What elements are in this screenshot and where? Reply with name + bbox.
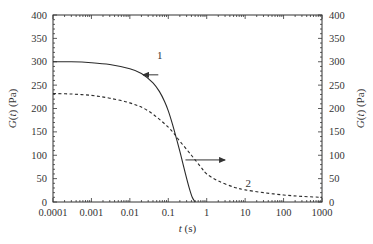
y-right-tick-label: 250 [329, 80, 345, 91]
data-series [53, 62, 322, 202]
y-right-tick-label: 50 [329, 173, 340, 184]
plot-frame [53, 15, 322, 202]
y-left-tick-label: 350 [31, 33, 47, 44]
y-left-tick-label: 150 [31, 126, 47, 137]
x-tick-label: 0.001 [80, 207, 104, 218]
y-left-axis-title: G(t) (Pa) [354, 88, 367, 128]
axis-ticks [53, 15, 322, 202]
x-axis-title: t (s) [179, 222, 197, 235]
y-left-tick-label: 200 [31, 103, 47, 114]
curve-label-1: 1 [157, 49, 163, 61]
curve-label-2: 2 [245, 177, 251, 189]
y-left-tick-label: 0 [42, 197, 47, 208]
y-right-tick-label: 0 [329, 197, 334, 208]
tick-labels: 0050501001001501502002002502503003003503… [31, 10, 345, 219]
x-tick-label: 10 [240, 207, 251, 218]
y-left-tick-label: 250 [31, 80, 47, 91]
x-tick-label: 1 [204, 207, 209, 218]
relaxation-modulus-chart: 0050501001001501502002002502503003003503… [0, 0, 373, 244]
y-left-tick-label: 400 [31, 10, 47, 21]
x-tick-label: 0.0001 [39, 207, 68, 218]
y-right-tick-label: 200 [329, 103, 345, 114]
x-tick-label: 100 [276, 207, 292, 218]
y-right-tick-label: 100 [329, 150, 345, 161]
x-tick-label: 1000 [312, 207, 333, 218]
y-left-tick-label: 50 [37, 173, 48, 184]
y-left-axis-title: G(t) (Pa) [6, 88, 19, 128]
y-right-tick-label: 400 [329, 10, 345, 21]
y-right-tick-label: 350 [329, 33, 345, 44]
y-right-tick-label: 300 [329, 56, 345, 67]
series-1-line [53, 62, 195, 202]
y-right-tick-label: 150 [329, 126, 345, 137]
plot-area-border [53, 15, 322, 202]
y-left-tick-label: 100 [31, 150, 47, 161]
x-tick-label: 0.1 [162, 207, 175, 218]
x-tick-label: 0.01 [121, 207, 139, 218]
y-left-tick-label: 300 [31, 56, 47, 67]
